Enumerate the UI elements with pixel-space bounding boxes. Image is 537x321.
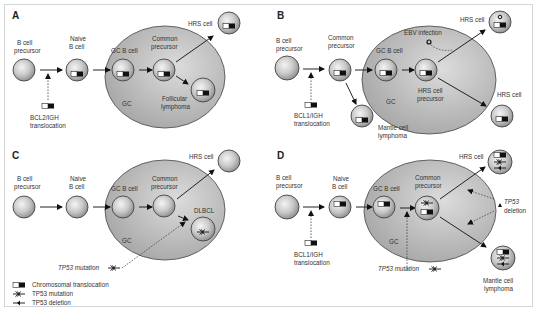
- chromosomal-translocation-icon: [305, 241, 317, 246]
- cell-common-precursor: [153, 195, 175, 217]
- label-hrs-cell-precursor-2: precursor: [417, 95, 444, 103]
- label-gc: GC: [389, 238, 399, 245]
- label-common-precursor-2: precursor: [151, 183, 178, 191]
- cell-common-precursor: [153, 59, 175, 81]
- label-b-cell-precursor-2: precursor: [14, 183, 41, 191]
- chromosomal-translocation-icon: [380, 71, 392, 76]
- label-common-precursor: Common: [152, 35, 178, 42]
- label-b-cell-precursor-2: precursor: [276, 182, 303, 190]
- cell-dlbcl: [191, 217, 215, 241]
- label-b-cell-precursor: B cell: [17, 39, 32, 46]
- chromosomal-translocation-icon: [334, 202, 346, 207]
- label-translocation-2: translocation: [294, 120, 330, 127]
- label-b-cell-precursor: B cell: [17, 175, 32, 182]
- cell-follicular-lymphoma: [191, 78, 215, 102]
- cell-b-cell-precursor: [275, 195, 299, 219]
- cell-hrs: [491, 105, 513, 127]
- cell-hrs-precursor: [415, 59, 437, 81]
- label-dlbcl: DLBCL: [194, 207, 215, 214]
- chromosomal-translocation-icon: [420, 71, 432, 76]
- label-b-cell-precursor-2: precursor: [14, 47, 41, 55]
- panel-letter-c: C: [12, 150, 19, 161]
- chromosomal-translocation-icon: [117, 72, 129, 77]
- chromosomal-translocation-icon: [13, 283, 25, 288]
- chromosomal-translocation-icon: [305, 103, 317, 108]
- cell-naive-b-cell: [329, 196, 351, 218]
- label-gc-b-cell: GC B cell: [373, 185, 400, 192]
- label-hrs-cell: HRS cell: [188, 20, 213, 27]
- label-naive-2: B cell: [69, 43, 84, 50]
- cell-gc-b-cell: [112, 59, 134, 81]
- cell-hrs: [218, 12, 240, 34]
- cell-gc-b-cell: [375, 59, 397, 81]
- chromosomal-translocation-icon: [421, 210, 433, 215]
- label-mantle-cell-lymphoma-2: lymphoma: [484, 285, 514, 293]
- legend-label: TP53 mutation: [32, 290, 73, 297]
- chromosomal-translocation-icon: [497, 250, 509, 255]
- label-common-precursor: Common: [415, 174, 441, 181]
- label-naive-2: B cell: [69, 183, 84, 190]
- chromosomal-translocation-icon: [42, 104, 54, 109]
- label-tp53-mutation: TP53 mutation: [378, 265, 419, 272]
- cell-b-cell-precursor: [275, 56, 299, 80]
- chromosomal-translocation-icon: [496, 117, 508, 122]
- panel-letter-d: D: [277, 150, 284, 161]
- label-hrs-cell-precursor: HRS cell: [418, 87, 443, 94]
- label-gc: GC: [386, 98, 396, 105]
- label-tp53-deletion-2: deletion: [504, 207, 527, 214]
- label-translocation: BCL2/IGH: [30, 114, 59, 121]
- label-translocation-2: translocation: [294, 259, 330, 266]
- label-common-precursor-2: precursor: [415, 182, 442, 190]
- chromosomal-translocation-icon: [334, 71, 346, 76]
- label-mantle-cell-lymphoma: Mantle cell: [483, 277, 513, 284]
- label-gc-b-cell: GC B cell: [111, 185, 138, 192]
- legend-label: TP53 deletion: [32, 299, 71, 306]
- label-translocation-2: translocation: [30, 122, 66, 129]
- chromosomal-translocation-icon: [494, 23, 506, 28]
- cell-b-cell-precursor: [13, 196, 35, 218]
- cell-gc-b-cell: [112, 196, 134, 218]
- panel-letter-a: A: [12, 10, 19, 21]
- label-common-precursor-2: precursor: [328, 42, 355, 50]
- label-hrs-cell: HRS cell: [459, 153, 484, 160]
- label-hrs-cell: HRS cell: [460, 16, 485, 23]
- legend-label: Chromosomal translocation: [32, 281, 109, 288]
- label-follicular-lymphoma-2: lymphoma: [161, 103, 191, 111]
- label-common-precursor: Common: [328, 34, 354, 41]
- label-naive: Naive: [70, 35, 87, 42]
- label-hrs-cell: HRS cell: [497, 91, 522, 98]
- label-common-precursor-2: precursor: [151, 43, 178, 51]
- lymphoma-origin-diagram: A B cell precursor BCL2/IGH translocatio…: [0, 0, 537, 321]
- cell-hrs-ebv: [489, 11, 511, 33]
- label-tp53-deletion: TP53: [504, 198, 520, 205]
- label-follicular-lymphoma: Follicular: [162, 95, 187, 102]
- label-tp53-mutation: TP53 mutation: [58, 264, 99, 271]
- label-mantle-cell-lymphoma: Mantle cell: [378, 124, 408, 131]
- cell-common-precursor: [415, 196, 439, 220]
- label-mantle-cell-lymphoma-2: lymphoma: [378, 132, 408, 140]
- label-hrs-cell: HRS cell: [189, 153, 214, 160]
- label-naive: Naive: [70, 175, 87, 182]
- chromosomal-translocation-icon: [223, 24, 235, 29]
- chromosomal-translocation-icon: [494, 153, 506, 158]
- label-gc-b-cell: GC B cell: [111, 47, 138, 54]
- label-naive-2: B cell: [332, 183, 347, 190]
- label-common-precursor: Common: [152, 175, 178, 182]
- label-gc-b-cell: GC B cell: [376, 47, 403, 54]
- cell-mantle-cell-lymphoma: [351, 105, 373, 127]
- label-translocation: BCL1/IGH: [294, 112, 323, 119]
- cell-gc-b-cell: [373, 196, 395, 218]
- label-translocation: BCL1/IGH: [294, 251, 323, 258]
- label-naive: Naive: [333, 175, 350, 182]
- label-gc: GC: [122, 100, 132, 107]
- cell-naive-b-cell: [66, 196, 88, 218]
- cell-naive-b-cell: [66, 59, 88, 81]
- panel-letter-b: B: [277, 10, 284, 21]
- label-ebv-infection: EBV infection: [404, 29, 442, 36]
- label-b-cell-precursor: B cell: [276, 37, 291, 44]
- chromosomal-translocation-icon: [356, 118, 368, 123]
- cell-common-precursor: [329, 59, 351, 81]
- chromosomal-translocation-icon: [158, 72, 170, 77]
- chromosomal-translocation-icon: [378, 202, 390, 207]
- chromosomal-translocation-icon: [71, 72, 83, 77]
